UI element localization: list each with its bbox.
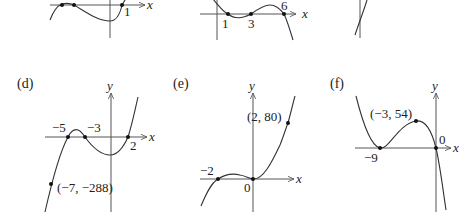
point-label: (−3, 54) bbox=[370, 106, 412, 121]
panel-label: (d) bbox=[17, 76, 34, 92]
tick-label: 0 bbox=[244, 180, 251, 195]
panel-label: (e) bbox=[173, 76, 189, 92]
tick-label: 1 bbox=[222, 16, 229, 31]
panel-b: x 1 3 6 bbox=[200, 0, 308, 40]
cubic-curve bbox=[355, 0, 367, 35]
panel-a: x 1 bbox=[50, 0, 153, 38]
tick-label: 6 bbox=[281, 0, 288, 13]
y-axis-label: y bbox=[105, 78, 113, 93]
labeled-point bbox=[286, 121, 290, 125]
tick-label: 1 bbox=[124, 4, 131, 19]
root-point bbox=[83, 135, 87, 139]
panel-c bbox=[355, 0, 367, 38]
x-axis-label: x bbox=[148, 129, 155, 144]
point-label: (−7, −288) bbox=[57, 180, 113, 195]
point-label: (2, 80) bbox=[247, 109, 282, 124]
root-point bbox=[60, 3, 64, 7]
x-axis-label: x bbox=[295, 171, 302, 186]
root-point bbox=[66, 135, 70, 139]
tick-label: 2 bbox=[130, 138, 137, 153]
panel-f: (f) y x −9 0 (−3, 54) bbox=[330, 76, 459, 212]
root-point bbox=[216, 177, 220, 181]
tick-label: 0 bbox=[439, 132, 446, 147]
x-axis-label: x bbox=[452, 140, 459, 155]
labeled-point bbox=[414, 119, 418, 123]
panel-d: (d) y x −5 −3 2 (−7, −288) bbox=[17, 76, 155, 212]
x-axis-label: x bbox=[301, 6, 308, 21]
root-point bbox=[378, 146, 382, 150]
tick-label: −2 bbox=[200, 163, 214, 178]
cubic-graphs-figure: x 1 x 1 3 6 (d) y x −5 −3 2 (−7, −288) bbox=[0, 0, 470, 222]
tick-label: 3 bbox=[248, 16, 255, 31]
panel-e: (e) y x −2 0 (2, 80) bbox=[173, 76, 302, 212]
panel-label: (f) bbox=[330, 76, 344, 92]
labeled-point bbox=[49, 182, 53, 186]
root-point bbox=[434, 146, 438, 150]
y-axis-label: y bbox=[430, 78, 438, 93]
tick-label: −3 bbox=[87, 120, 101, 135]
root-point bbox=[251, 177, 255, 181]
root-point bbox=[72, 3, 76, 7]
y-axis-label: y bbox=[247, 78, 255, 93]
x-axis-label: x bbox=[146, 0, 153, 12]
tick-label: −5 bbox=[52, 120, 66, 135]
tick-label: −9 bbox=[364, 150, 378, 165]
